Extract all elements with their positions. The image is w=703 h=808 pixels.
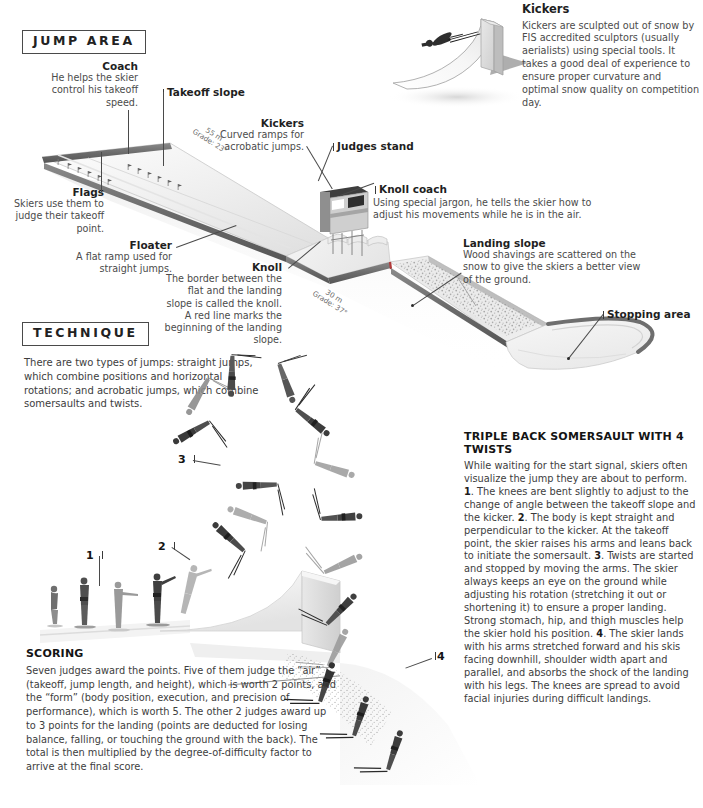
landing-slope-body: Wood shavings are scattered on the snow … (463, 249, 641, 285)
floater-body: A flat ramp used for straight jumps. (60, 251, 172, 275)
infographic-page: Kickers Kickers are sculpted out of snow… (0, 0, 703, 808)
somersault-block: TRIPLE BACK SOMERSAULT WITH 4 TWISTS Whi… (464, 430, 698, 706)
somersault-step-2-num: 2 (518, 512, 525, 523)
sequence-number-4: 4 (437, 650, 445, 663)
callout-judges-stand: Judges stand (330, 135, 414, 154)
knoll-body: The border between the flat and the land… (160, 273, 282, 345)
callout-takeoff-slope: Takeoff slope (160, 81, 245, 100)
somersault-body: While waiting for the start signal, skie… (464, 460, 698, 706)
section-heading-jump-area: JUMP AREA (22, 30, 146, 54)
leader-line-takeoff-slope (163, 92, 164, 166)
kickers-panel-title: Kickers (522, 3, 700, 17)
coach-body: He helps the skier control his takeoff s… (20, 72, 138, 108)
callout-knoll: Knoll The border between the flat and th… (160, 261, 282, 346)
leader-line-coach (128, 110, 129, 154)
technique-label: TECHNIQUE (22, 322, 149, 346)
somersault-step-3-num: 3 (594, 550, 601, 561)
somersault-step-1-num: 1 (464, 486, 471, 497)
stopping-area-title: Stopping area (607, 308, 691, 320)
knoll-coach-body: Using special jargon, he tells the skier… (373, 197, 622, 221)
jump-area-label: JUMP AREA (22, 30, 146, 54)
kickers-title: Kickers (200, 117, 304, 129)
stopping-area-anchor-dot (567, 357, 570, 360)
scoring-block: SCORING Seven judges award the points. F… (26, 647, 336, 774)
sequence-4-tick (435, 652, 436, 660)
callout-knoll-coach: Knoll coach Using special jargon, he tel… (372, 178, 622, 221)
leader-line-seq-1 (99, 556, 100, 586)
kicker-illustration (385, 5, 535, 110)
sequence-number-2: 2 (158, 540, 166, 553)
landing-slope-anchor-dot (411, 304, 414, 307)
somersault-title: TRIPLE BACK SOMERSAULT WITH 4 TWISTS (464, 430, 698, 456)
somersault-step-4-text: . The skier lands with his arms stretche… (464, 628, 689, 704)
coach-title: Coach (20, 60, 138, 72)
knoll-coach-title: Knoll coach (379, 183, 447, 195)
judges-stand-tick (333, 143, 334, 151)
callout-flags: Flags Skiers use them to judge their tak… (6, 186, 104, 235)
sequence-1-tick (102, 551, 103, 559)
callout-stopping-area: Stopping area (600, 303, 691, 322)
landing-slope-title: Landing slope (463, 237, 641, 249)
takeoff-slope-title: Takeoff slope (167, 86, 245, 98)
kickers-panel: Kickers Kickers are sculpted out of snow… (522, 3, 700, 110)
somersault-step-3-text: . Twists are started and stopped by movi… (464, 550, 694, 639)
sequence-number-1: 1 (86, 549, 94, 562)
knoll-title: Knoll (160, 261, 282, 273)
callout-coach: Coach He helps the skier control his tak… (20, 60, 138, 109)
judges-stand-title: Judges stand (337, 140, 414, 152)
leader-line-flags (101, 152, 102, 192)
sequence-number-3: 3 (178, 453, 186, 466)
scoring-body: Seven judges award the points. Five of t… (26, 664, 336, 774)
knoll-coach-tick (375, 186, 376, 194)
kickers-panel-body: Kickers are sculpted out of snow by FIS … (522, 20, 700, 110)
floater-title: Floater (60, 239, 172, 251)
flags-title: Flags (6, 186, 104, 198)
callout-floater: Floater A flat ramp used for straight ju… (60, 239, 172, 276)
callout-landing-slope: Landing slope Wood shavings are scattere… (463, 237, 641, 286)
flags-body: Skiers use them to judge their takeoff p… (6, 198, 104, 234)
section-heading-technique: TECHNIQUE (22, 322, 149, 346)
scoring-title: SCORING (26, 647, 336, 660)
somersault-intro: While waiting for the start signal, skie… (464, 460, 687, 484)
sequence-3-tick (194, 455, 195, 463)
